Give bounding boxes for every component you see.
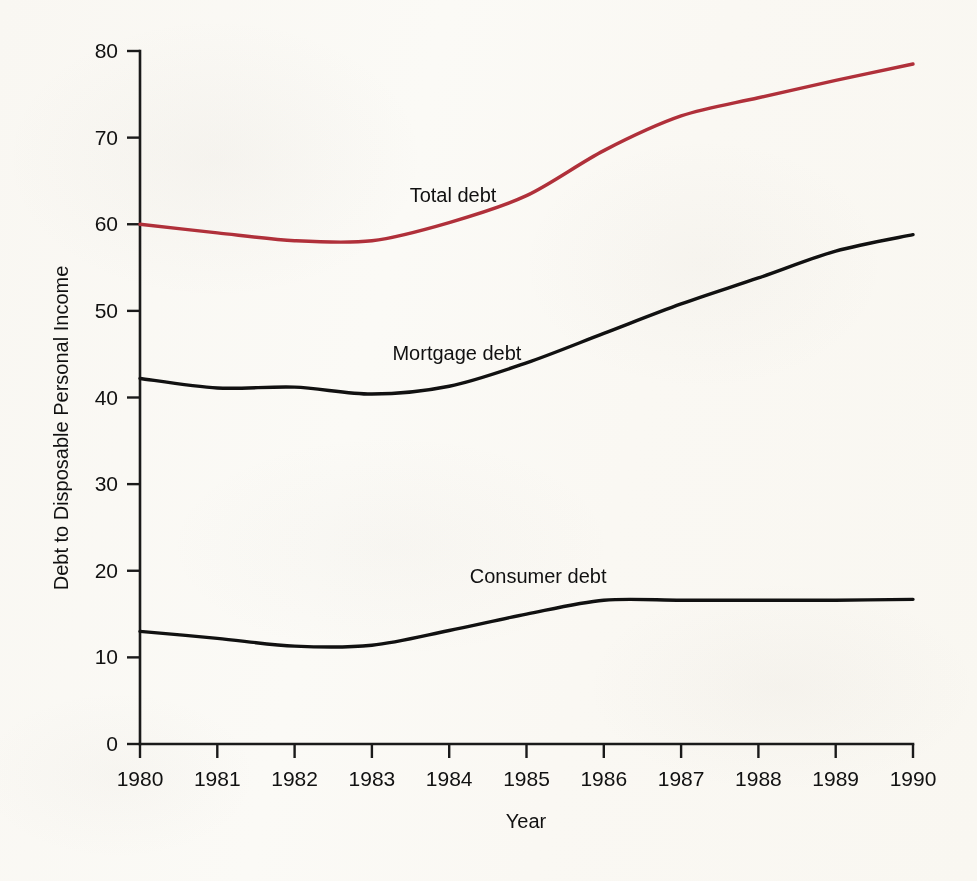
series-label-total-debt: Total debt xyxy=(410,184,497,206)
x-tick-label: 1990 xyxy=(890,767,937,790)
series-line-mortgage-debt xyxy=(140,235,913,394)
x-tick-label: 1980 xyxy=(117,767,164,790)
y-axis-ticks: 01020304050607080 xyxy=(95,39,140,755)
y-tick-label: 0 xyxy=(106,732,118,755)
x-tick-label: 1981 xyxy=(194,767,241,790)
y-tick-label: 20 xyxy=(95,559,118,582)
series-line-total-debt xyxy=(140,64,913,242)
series-lines xyxy=(140,64,913,647)
x-axis-ticks: 1980198119821983198419851986198719881989… xyxy=(117,744,937,790)
x-tick-label: 1985 xyxy=(503,767,550,790)
x-tick-label: 1989 xyxy=(812,767,859,790)
y-tick-label: 80 xyxy=(95,39,118,62)
series-line-consumer-debt xyxy=(140,599,913,647)
x-tick-label: 1984 xyxy=(426,767,473,790)
x-tick-label: 1988 xyxy=(735,767,782,790)
x-tick-label: 1983 xyxy=(349,767,396,790)
y-tick-label: 30 xyxy=(95,472,118,495)
x-tick-label: 1987 xyxy=(658,767,705,790)
x-tick-label: 1986 xyxy=(580,767,627,790)
series-label-consumer-debt: Consumer debt xyxy=(470,565,607,587)
chart-page: 01020304050607080 1980198119821983198419… xyxy=(0,0,977,881)
debt-to-income-line-chart: 01020304050607080 1980198119821983198419… xyxy=(0,0,977,881)
x-axis-title: Year xyxy=(506,810,547,832)
y-tick-label: 40 xyxy=(95,386,118,409)
x-tick-label: 1982 xyxy=(271,767,318,790)
y-tick-label: 10 xyxy=(95,645,118,668)
series-inline-labels: Total debtMortgage debtConsumer debt xyxy=(392,184,606,587)
y-axis-title: Debt to Disposable Personal Income xyxy=(50,266,72,591)
y-tick-label: 50 xyxy=(95,299,118,322)
y-tick-label: 60 xyxy=(95,212,118,235)
y-tick-label: 70 xyxy=(95,126,118,149)
series-label-mortgage-debt: Mortgage debt xyxy=(392,342,521,364)
